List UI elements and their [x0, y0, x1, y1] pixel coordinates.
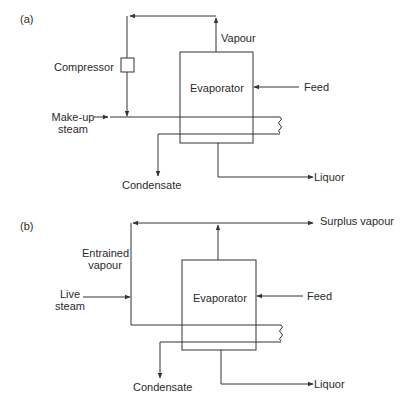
liquor-a-label: Liquor [314, 171, 345, 183]
panel-a-tag: (a) [20, 13, 33, 25]
condensate-b-label: Condensate [133, 381, 192, 393]
evaporator-a-box [180, 52, 253, 143]
vapour-label: Vapour [221, 32, 256, 44]
heating-coil-a [279, 117, 282, 133]
entrained-vapour-label: Entrained vapour [82, 247, 128, 271]
compressor-label: Compressor [54, 61, 114, 73]
liquor-b-label: Liquor [314, 378, 345, 390]
panel-a-lines [94, 16, 313, 177]
compressor-box [121, 58, 134, 72]
feed-b-label: Feed [307, 290, 332, 302]
evaporator-b-label: Evaporator [193, 292, 247, 304]
panel-b-tag: (b) [20, 220, 33, 232]
live-steam-label: Live steam [50, 288, 90, 312]
surplus-vapour-label: Surplus vapour [320, 215, 394, 227]
makeup-steam-label: Make-up steam [50, 111, 96, 135]
evaporator-a-label: Evaporator [190, 82, 244, 94]
condensate-a-label: Condensate [122, 179, 181, 191]
feed-a-label: Feed [304, 81, 329, 93]
evaporator-b-box [182, 260, 256, 350]
heating-coil-b [280, 325, 283, 341]
